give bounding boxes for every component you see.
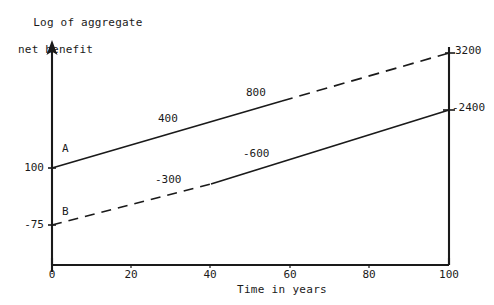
series-a-start-value: 100 bbox=[10, 161, 44, 175]
series-a-end-value: 3200 bbox=[455, 44, 482, 58]
series-a-name: A bbox=[62, 142, 69, 156]
series-b-name: B bbox=[62, 205, 69, 219]
y-axis-label-line2: net benefit bbox=[6, 43, 142, 57]
x-tick-label-20: 20 bbox=[116, 268, 146, 282]
series-b-line bbox=[52, 110, 449, 225]
series-a-annotation-800: 800 bbox=[246, 86, 266, 100]
chart-figure: Log of aggregate net benefit Time in yea… bbox=[0, 0, 494, 305]
series-b-end-value: -2400 bbox=[452, 101, 485, 115]
x-tick-label-60: 60 bbox=[275, 268, 305, 282]
y-axis-label: Log of aggregate net benefit bbox=[6, 2, 142, 85]
x-axis-label: Time in years bbox=[237, 283, 327, 297]
series-b-annotation-300: -300 bbox=[155, 173, 182, 187]
series-a-annotation-400: 400 bbox=[158, 112, 178, 126]
x-tick-label-40: 40 bbox=[195, 268, 225, 282]
x-axis bbox=[52, 258, 449, 265]
series-b-start-value: -75 bbox=[10, 218, 44, 232]
y-axis-label-line1: Log of aggregate bbox=[33, 16, 142, 29]
x-tick-label-100: 100 bbox=[434, 268, 464, 282]
x-tick-label-80: 80 bbox=[354, 268, 384, 282]
x-tick-label-0: 0 bbox=[37, 268, 67, 282]
series-b-annotation-600: -600 bbox=[243, 147, 270, 161]
